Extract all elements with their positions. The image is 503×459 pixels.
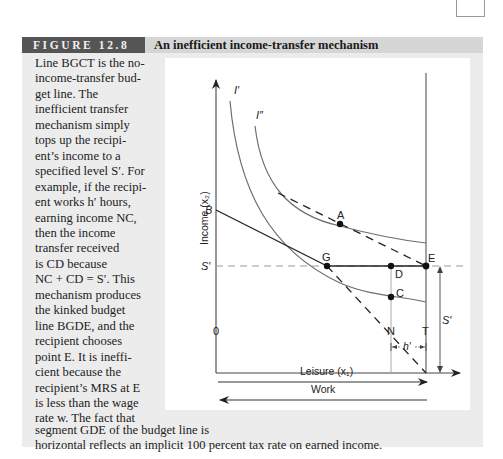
x-axis-label: Leisure (x₁) [300,365,353,377]
point-d [388,263,394,269]
label-h-prime: h′ [403,340,412,352]
y-axis-label: Income (x₂) [198,191,210,245]
label-g: G [322,251,331,263]
label-i-prime: I′ [234,84,240,96]
label-i-double-prime: I″ [256,109,264,121]
budget-line-gct [327,266,426,373]
point-g [324,263,330,269]
label-n: N [387,325,395,337]
label-s-prime: S′ [201,260,211,272]
label-s-prime-bracket: S′ [442,314,452,326]
label-d: D [395,268,403,280]
label-origin: 0 [213,325,219,337]
label-t: T [422,325,429,337]
label-e: E [428,252,435,264]
point-c [388,294,394,300]
point-a [337,221,343,227]
label-b: B [205,204,212,216]
label-c: C [396,287,404,299]
budget-line-bg [216,210,327,266]
work-label: Work [311,383,336,395]
label-a: A [337,209,345,221]
income-transfer-diagram: Income (x₂) I′ I″ B S′ G D E C A 0 N T h… [0,0,503,459]
